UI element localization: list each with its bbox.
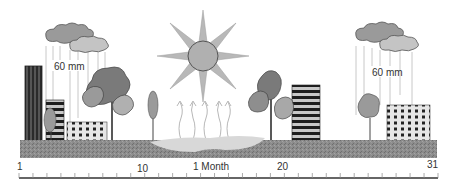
water-cycle-illustration: 60 mm 60 mm: [0, 0, 456, 191]
rain-amount-right-label: 60 mm: [372, 67, 403, 78]
timeline-end-label: 31: [427, 159, 439, 170]
evaporation-arrows: [177, 101, 231, 140]
timeline-start-label: 1: [17, 161, 23, 172]
sun-icon: [157, 10, 249, 102]
timeline-ruler: 1 10 1 Month 20 31: [17, 159, 439, 178]
tree-icon: [248, 71, 293, 142]
building-striped: [292, 85, 320, 141]
tree-icon: [358, 94, 379, 142]
building-windows: [387, 105, 430, 141]
tree-icon: [148, 91, 158, 142]
timeline-tick-10-label: 10: [137, 163, 149, 174]
rain-amount-left-label: 60 mm: [54, 61, 85, 72]
building-tall-striped: [25, 66, 42, 141]
building-windows: [67, 122, 107, 141]
timeline-tick-20-label: 20: [277, 161, 289, 172]
timeline-center-label: 1 Month: [193, 161, 229, 172]
